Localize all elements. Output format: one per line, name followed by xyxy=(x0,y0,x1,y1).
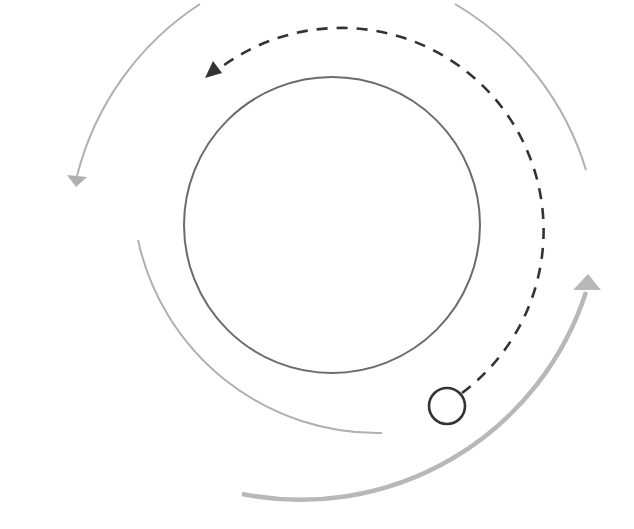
outer-left-arrowhead-icon xyxy=(67,175,87,187)
outer-left-arc xyxy=(77,4,200,176)
bottom-thick-arc xyxy=(242,292,586,500)
bottom-thick-arrowhead-icon xyxy=(573,274,601,290)
dashed-path-arc xyxy=(220,28,544,393)
lower-left-arc xyxy=(138,240,382,433)
inner-circle xyxy=(184,77,480,373)
outer-right-arc xyxy=(455,4,586,170)
dashed-arrowhead-icon xyxy=(205,61,222,78)
cycle-diagram xyxy=(0,0,634,529)
marker-circle xyxy=(429,388,465,424)
